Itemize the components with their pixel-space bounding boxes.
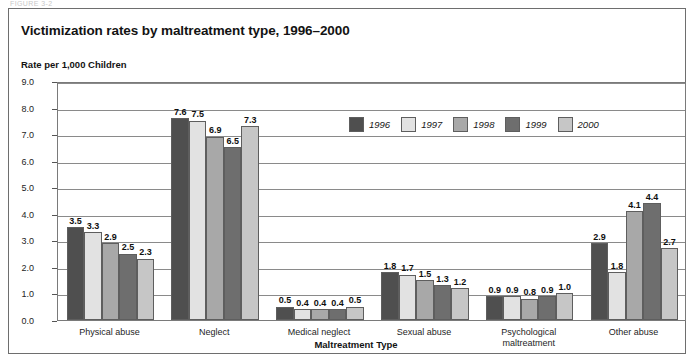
bar-value-label: 0.9 (506, 285, 519, 295)
y-tick-label: 2.0 (4, 263, 34, 273)
y-tick-label: 1.0 (4, 289, 34, 299)
bar-1997-1[interactable] (189, 121, 207, 320)
legend-swatch-icon (349, 117, 364, 132)
category-label: Other abuse (609, 327, 659, 338)
bar-1998-3[interactable] (416, 280, 434, 320)
legend-swatch-icon (505, 117, 520, 132)
bar-value-label: 1.2 (454, 277, 467, 287)
bar-group: 3.53.32.92.52.3 (58, 83, 163, 320)
bar-1999-0[interactable] (119, 254, 137, 320)
y-tick-label: 4.0 (4, 210, 34, 220)
figure-number-cutoff: FIGURE 3-2 (10, 0, 210, 7)
page-title: Victimization rates by maltreatment type… (21, 23, 350, 38)
legend-item-1998[interactable]: 1998 (453, 117, 494, 132)
legend-label: 1997 (421, 119, 442, 130)
y-tick-label: 7.0 (4, 130, 34, 140)
legend-item-1999[interactable]: 1999 (505, 117, 546, 132)
bar-1996-3[interactable] (381, 272, 399, 320)
legend-label: 1999 (525, 119, 546, 130)
bar-value-label: 0.9 (541, 285, 554, 295)
bar-value-label: 7.6 (174, 107, 187, 117)
bar-1997-5[interactable] (608, 272, 626, 320)
bar-1999-5[interactable] (643, 203, 661, 320)
category-label: Physical abuse (79, 327, 140, 338)
bar-value-label: 3.5 (69, 216, 82, 226)
bar-1996-0[interactable] (67, 227, 85, 320)
bar-1998-5[interactable] (626, 211, 644, 320)
bar-1999-4[interactable] (538, 296, 556, 320)
bar-2000-2[interactable] (346, 307, 364, 320)
category-label: Sexual abuse (397, 327, 452, 338)
category-label: Neglect (199, 327, 230, 338)
legend: 19961997199819992000 (349, 114, 610, 134)
bar-value-label: 2.9 (104, 232, 117, 242)
bar-value-label: 1.0 (558, 282, 571, 292)
bar-1997-0[interactable] (84, 232, 102, 320)
bar-value-label: 0.5 (279, 295, 292, 305)
bar-value-label: 4.1 (628, 200, 641, 210)
bar-value-label: 0.9 (488, 285, 501, 295)
y-tick-mark (52, 321, 57, 322)
bar-value-label: 1.3 (436, 274, 449, 284)
bar-value-label: 0.8 (523, 287, 536, 297)
y-tick-label: 5.0 (4, 183, 34, 193)
bar-1998-2[interactable] (311, 309, 329, 320)
bar-value-label: 7.3 (244, 115, 257, 125)
bar-2000-0[interactable] (137, 259, 155, 320)
legend-item-2000[interactable]: 2000 (558, 117, 599, 132)
bar-value-label: 2.3 (139, 247, 152, 257)
bar-1997-4[interactable] (503, 296, 521, 320)
bar-1998-1[interactable] (206, 137, 224, 320)
bar-2000-5[interactable] (661, 248, 679, 320)
bar-value-label: 2.5 (122, 242, 135, 252)
bar-2000-4[interactable] (556, 293, 574, 320)
bar-value-label: 0.4 (314, 298, 327, 308)
bar-1999-3[interactable] (434, 285, 452, 320)
bar-1997-2[interactable] (294, 309, 312, 320)
bar-value-label: 7.5 (191, 109, 204, 119)
bar-1996-4[interactable] (486, 296, 504, 320)
bar-value-label: 2.9 (593, 232, 606, 242)
bar-value-label: 0.5 (349, 295, 362, 305)
y-tick-label: 0.0 (4, 316, 34, 326)
bar-1997-3[interactable] (399, 275, 417, 320)
x-axis-title: Maltreatment Type (9, 339, 694, 350)
bar-1996-5[interactable] (591, 243, 609, 320)
legend-swatch-icon (558, 117, 573, 132)
bar-1999-2[interactable] (329, 309, 347, 320)
bar-2000-3[interactable] (451, 288, 469, 320)
legend-label: 1998 (473, 119, 494, 130)
y-tick-label: 8.0 (4, 104, 34, 114)
category-label: Medical neglect (288, 327, 351, 338)
bar-1996-1[interactable] (171, 118, 189, 320)
legend-swatch-icon (453, 117, 468, 132)
bar-group: 7.67.56.96.57.3 (163, 83, 268, 320)
bar-1998-4[interactable] (521, 299, 539, 320)
legend-swatch-icon (401, 117, 416, 132)
bar-1998-0[interactable] (102, 243, 120, 320)
legend-label: 1996 (369, 119, 390, 130)
bar-value-label: 1.5 (419, 269, 432, 279)
legend-item-1997[interactable]: 1997 (401, 117, 442, 132)
bar-value-label: 0.4 (331, 298, 344, 308)
figure-frame: Victimization rates by maltreatment type… (8, 8, 686, 354)
legend-item-1996[interactable]: 1996 (349, 117, 390, 132)
bar-1996-2[interactable] (276, 307, 294, 320)
y-tick-label: 9.0 (4, 77, 34, 87)
bar-value-label: 1.7 (401, 263, 414, 273)
bar-value-label: 6.9 (209, 125, 222, 135)
bar-value-label: 2.7 (663, 237, 676, 247)
bar-2000-1[interactable] (241, 126, 259, 320)
bar-1999-1[interactable] (224, 147, 242, 320)
y-tick-label: 3.0 (4, 236, 34, 246)
bar-value-label: 4.4 (646, 192, 659, 202)
bar-value-label: 3.3 (87, 221, 100, 231)
y-tick-label: 6.0 (4, 157, 34, 167)
bar-value-label: 6.5 (226, 136, 239, 146)
bar-value-label: 0.4 (296, 298, 309, 308)
bar-value-label: 1.8 (611, 261, 624, 271)
bar-value-label: 1.8 (384, 261, 397, 271)
y-axis-title: Rate per 1,000 Children (21, 59, 127, 70)
legend-label: 2000 (578, 119, 599, 130)
